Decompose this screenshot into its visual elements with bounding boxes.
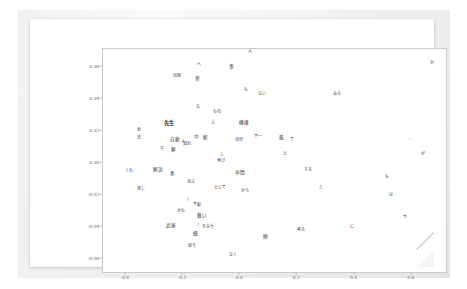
scatter-label: 中 bbox=[194, 135, 199, 140]
scatter-label: で一 bbox=[254, 135, 262, 139]
y-tick-label: -0.02 bbox=[88, 191, 99, 196]
scatter-label: 「 bbox=[185, 199, 189, 203]
y-tick-mark bbox=[99, 129, 102, 130]
scatter-label: 再び bbox=[217, 159, 225, 163]
x-tick-label: -0.4 bbox=[121, 275, 130, 280]
scatter-label: 顔 bbox=[263, 234, 268, 239]
y-tick-mark bbox=[99, 97, 102, 98]
y-tick-label: 0.02 bbox=[89, 127, 99, 132]
scatter-label: 風 bbox=[279, 136, 284, 141]
scatter-label: 上 bbox=[211, 121, 215, 125]
scatter-label: へ bbox=[197, 63, 201, 67]
scatter-label: か bbox=[430, 61, 434, 65]
scatter-label: で庭 bbox=[193, 203, 201, 207]
y-tick-label: 0.00 bbox=[89, 159, 99, 164]
x-tick-label: -0.2 bbox=[178, 275, 187, 280]
scatter-label: し bbox=[220, 153, 224, 157]
scatter-label: ある bbox=[333, 92, 341, 96]
scatter-label: 文 bbox=[248, 49, 252, 53]
scatter-label: なく bbox=[229, 253, 237, 257]
scatter-points-layer: 文かへ事出席寄もないあるなもの先生上機嫌めで一自分て風氏自動中駅人知れ、牛解がし… bbox=[103, 49, 446, 272]
scatter-label: かも bbox=[177, 209, 185, 213]
scatter-label: ない bbox=[258, 92, 266, 96]
scatter-label: 駅 bbox=[203, 136, 208, 141]
scatter-label: 解説 bbox=[153, 167, 163, 172]
scatter-label: 素 bbox=[170, 172, 175, 177]
scatter-label: として bbox=[214, 186, 226, 190]
scatter-label: め bbox=[137, 128, 141, 132]
scatter-label: が bbox=[421, 152, 425, 156]
scatter-label: て bbox=[290, 138, 294, 142]
x-tick-label: 0.6 bbox=[407, 275, 414, 280]
scatter-label: 知れ bbox=[183, 142, 191, 146]
y-tick-label: -0.04 bbox=[88, 224, 99, 229]
scatter-label: から bbox=[241, 189, 249, 193]
y-tick-mark bbox=[99, 258, 102, 259]
scatter-label: 解 bbox=[171, 148, 176, 153]
y-tick-mark bbox=[99, 65, 102, 66]
x-tick-mark bbox=[353, 272, 354, 275]
scatter-label: 牛 bbox=[160, 147, 164, 151]
x-tick-label: 0.0 bbox=[236, 275, 243, 280]
scatter-label: で bbox=[403, 216, 407, 220]
x-tick-mark bbox=[296, 272, 297, 275]
scatter-label: 、 bbox=[409, 136, 413, 140]
y-tick-label: -0.06 bbox=[88, 256, 99, 261]
scatter-label: 思う bbox=[188, 243, 196, 247]
y-tick-mark bbox=[99, 162, 102, 163]
scatter-label: 寄 bbox=[195, 76, 200, 81]
scatter-label: する bbox=[304, 168, 312, 172]
scatter-label: 出席 bbox=[173, 74, 181, 78]
scatter-label: 難い bbox=[197, 214, 207, 219]
scatter-label: 氏 bbox=[137, 136, 141, 140]
scatter-label: 思し bbox=[137, 187, 145, 191]
y-tick-label: 0.06 bbox=[89, 63, 99, 68]
scatter-label: 申間 bbox=[235, 170, 245, 175]
x-tick-mark bbox=[239, 272, 240, 275]
page-curl-icon bbox=[417, 250, 434, 267]
scatter-label: 武庫 bbox=[166, 224, 176, 229]
x-axis-ticks: -0.4-0.20.00.20.40.6 bbox=[102, 275, 445, 287]
screenshot-root: 文かへ事出席寄もないあるなもの先生上機嫌めで一自分て風氏自動中駅人知れ、牛解がし… bbox=[0, 0, 467, 289]
y-tick-mark bbox=[99, 194, 102, 195]
scatter-label: た bbox=[319, 186, 323, 190]
scatter-label: 自動 bbox=[170, 137, 180, 142]
y-axis-ticks: 0.060.040.020.00-0.02-0.04-0.06 bbox=[74, 48, 99, 271]
scatter-label: 」 bbox=[197, 222, 201, 226]
scatter-label: を言う bbox=[202, 225, 214, 229]
scatter-label: 先生 bbox=[164, 121, 174, 126]
x-tick-mark bbox=[182, 272, 183, 275]
scatter-label: な bbox=[196, 105, 200, 109]
scatter-label: 消え bbox=[187, 180, 195, 184]
scatter-label: もの bbox=[213, 110, 221, 114]
x-tick-mark bbox=[410, 272, 411, 275]
plot-area: 文かへ事出席寄もないあるなもの先生上機嫌めで一自分て風氏自動中駅人知れ、牛解がし… bbox=[102, 48, 447, 273]
scatter-label: に bbox=[350, 225, 354, 229]
x-tick-label: 0.2 bbox=[293, 275, 300, 280]
scatter-label: 細 bbox=[193, 231, 198, 236]
scatter-label: も bbox=[244, 88, 248, 92]
scatter-label: 事 bbox=[229, 64, 234, 69]
scatter-label: と bbox=[283, 152, 287, 156]
scatter-label: は bbox=[389, 193, 393, 197]
scatter-label: 自分 bbox=[235, 138, 243, 142]
x-tick-label: 0.4 bbox=[350, 275, 357, 280]
y-tick-label: 0.04 bbox=[89, 95, 99, 100]
scatter-label: くれ bbox=[125, 169, 133, 173]
scatter-label: 考る bbox=[297, 228, 305, 232]
scatter-label: 機嫌 bbox=[239, 121, 249, 126]
y-tick-mark bbox=[99, 226, 102, 227]
chart-page: 文かへ事出席寄もないあるなもの先生上機嫌めで一自分て風氏自動中駅人知れ、牛解がし… bbox=[30, 19, 434, 267]
scatter-label: も bbox=[385, 175, 389, 179]
x-tick-mark bbox=[124, 272, 125, 275]
